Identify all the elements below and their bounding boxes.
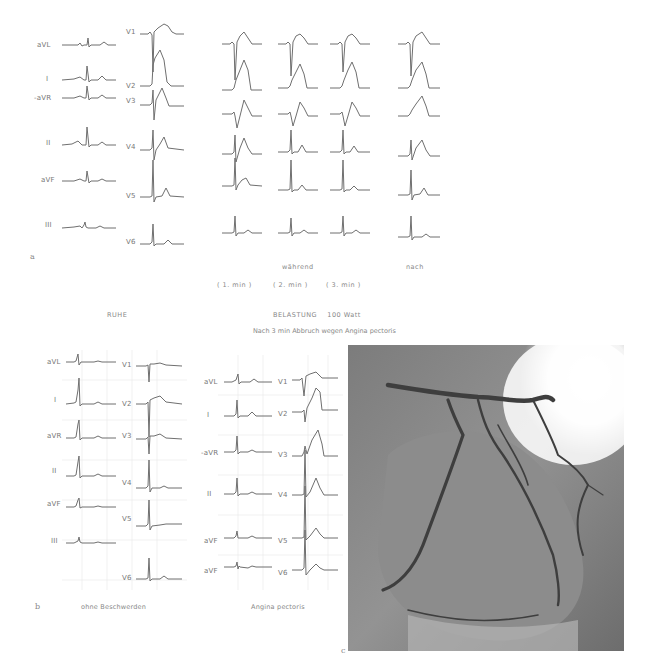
panel-letter-c: c [341,646,345,655]
angiogram-image [348,345,624,651]
lead-label: V2 [278,410,288,418]
lead-label: I [54,396,56,404]
caption-minute-1: ( 1. min ) [217,281,252,289]
caption-after: nach [406,263,424,271]
lead-label: V4 [122,479,132,487]
lead-label: aVL [47,358,61,366]
ecg-trace-exercise-min1 [220,30,270,260]
lead-label: aVL [204,378,218,386]
lead-label: V5 [278,537,288,545]
ecg-trace-chest-no-symptoms [134,352,186,592]
lead-label: -aVR [201,449,218,457]
lead-label: V1 [126,28,136,36]
lead-label: aVF [41,176,55,184]
lead-label: III [51,537,58,545]
lead-label: V3 [278,451,288,459]
lead-label: V6 [126,238,136,246]
ecg-trace-limb-angina [222,370,278,580]
lead-label: III [45,221,52,229]
ecg-trace-limb-rest [60,30,120,240]
lead-label: aVF [204,567,218,575]
lead-label: aVL [37,41,51,49]
lead-label: V4 [126,143,136,151]
lead-label: V2 [126,82,136,90]
lead-label: V6 [122,574,132,582]
caption-no-symptoms: ohne Beschwerden [81,603,146,611]
ecg-trace-chest-rest [138,20,198,260]
lead-label: V6 [278,569,288,577]
lead-label: I [46,75,48,83]
lead-label: aVF [204,537,218,545]
caption-load: BELASTUNG 100 Watt [273,311,361,319]
lead-label: V1 [278,378,288,386]
coronary-angiogram [348,345,624,651]
lead-label: V5 [126,192,136,200]
lead-label: II [46,139,51,147]
panel-letter-a: a [30,252,35,261]
lead-label: V4 [278,491,288,499]
ecg-trace-limb-no-symptoms [64,350,120,560]
lead-label: V1 [122,361,132,369]
lead-label: V2 [122,400,132,408]
ecg-trace-after [396,30,446,260]
lead-label: II [52,467,57,475]
ecg-trace-exercise-min2 [276,30,326,260]
caption-during: während [282,263,314,271]
ecg-trace-exercise-min3 [328,30,378,260]
lead-label: V5 [122,515,132,523]
lead-label: V3 [126,97,136,105]
lead-label: V3 [122,432,132,440]
caption-minute-3: ( 3. min ) [326,281,361,289]
ecg-trace-chest-angina [290,370,346,580]
lead-label: aVF [47,500,61,508]
caption-rest: RUHE [107,311,127,319]
caption-angina: Angina pectoris [251,603,305,611]
lead-label: aVR [47,432,62,440]
caption-abort-note: Nach 3 min Abbruch wegen Angina pectoris [253,327,396,335]
lead-label: II [207,490,212,498]
caption-minute-2: ( 2. min ) [273,281,308,289]
lead-label: -aVR [34,94,51,102]
panel-letter-b: b [35,602,40,611]
lead-label: I [207,411,209,419]
